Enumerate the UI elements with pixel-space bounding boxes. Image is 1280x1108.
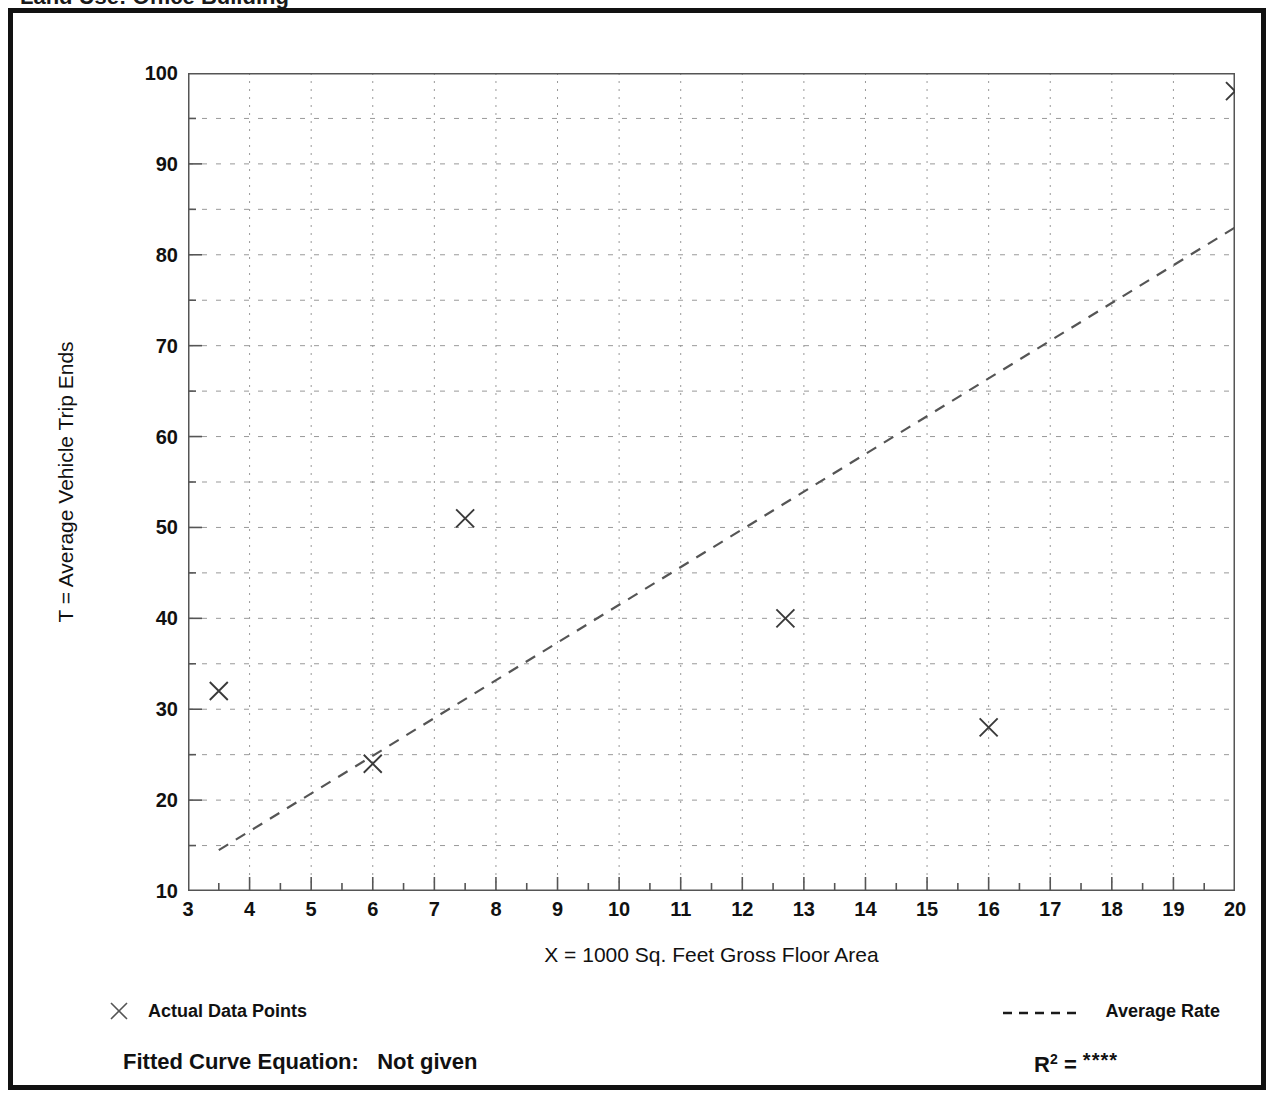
x-axis-tick-label: 8 [476, 899, 516, 919]
r-squared-equals: = [1064, 1052, 1077, 1077]
legend-item-data-points: Actual Data Points [108, 995, 307, 1027]
y-axis-tick-labels: 102030405060708090100 [123, 73, 178, 891]
plot-area [188, 73, 1235, 891]
y-axis-title: T = Average Vehicle Trip Ends [51, 73, 81, 891]
x-axis-tick-label: 15 [907, 899, 947, 919]
x-axis-tick-label: 18 [1092, 899, 1132, 919]
y-axis-title-text: T = Average Vehicle Trip Ends [54, 341, 78, 622]
y-axis-tick-label: 90 [128, 154, 178, 174]
legend-item-average-rate: Average Rate [1002, 995, 1220, 1027]
x-axis-title-text: X = 1000 Sq. Feet Gross Floor Area [544, 943, 878, 966]
x-axis-tick-label: 9 [538, 899, 578, 919]
y-axis-tick-label: 10 [128, 881, 178, 901]
x-axis-tick-label: 5 [291, 899, 331, 919]
x-axis-tick-label: 17 [1030, 899, 1070, 919]
legend-label-average-rate: Average Rate [1106, 1001, 1220, 1022]
x-axis-tick-label: 14 [845, 899, 885, 919]
x-axis-tick-label: 12 [722, 899, 762, 919]
data-point-marker [210, 682, 228, 700]
y-axis-tick-label: 60 [128, 427, 178, 447]
chart-footnotes: Fitted Curve Equation: Not given R2 = **… [123, 1049, 1238, 1083]
fitted-curve-label: Fitted Curve Equation: [123, 1049, 359, 1074]
x-axis-tick-label: 11 [661, 899, 701, 919]
x-axis-tick-label: 7 [414, 899, 454, 919]
x-axis-tick-label: 6 [353, 899, 393, 919]
fitted-curve-value: Not given [377, 1049, 477, 1074]
y-axis-tick-label: 100 [128, 63, 178, 83]
chart-legend: Actual Data Points Average Rate [108, 995, 1238, 1027]
scatter-plot-svg [188, 73, 1235, 891]
x-axis-tick-label: 20 [1215, 899, 1255, 919]
x-axis-tick-label: 4 [230, 899, 270, 919]
y-axis-tick-label: 40 [128, 608, 178, 628]
x-axis-title: X = 1000 Sq. Feet Gross Floor Area [188, 943, 1235, 967]
y-axis-tick-label: 80 [128, 245, 178, 265]
x-axis-tick-label: 3 [168, 899, 208, 919]
y-axis-tick-label: 70 [128, 336, 178, 356]
x-axis-tick-labels: 34567891011121314151617181920 [188, 899, 1235, 927]
y-axis-tick-label: 20 [128, 790, 178, 810]
dashed-line-icon [1002, 1005, 1084, 1017]
chart-frame: T = Average Vehicle Trip Ends 1020304050… [8, 8, 1266, 1090]
x-axis-tick-label: 19 [1153, 899, 1193, 919]
x-axis-tick-label: 13 [784, 899, 824, 919]
y-axis-tick-label: 30 [128, 699, 178, 719]
y-axis-tick-label: 50 [128, 517, 178, 537]
r-squared-value: R2 = **** [1034, 1049, 1118, 1078]
r-squared-label: R [1034, 1052, 1050, 1077]
x-marker-icon [108, 1000, 130, 1022]
x-axis-tick-label: 10 [599, 899, 639, 919]
data-point-marker [456, 509, 474, 527]
r-squared-stars: **** [1083, 1049, 1118, 1071]
legend-label-data-points: Actual Data Points [148, 1001, 307, 1022]
r-squared-exponent: 2 [1050, 1051, 1058, 1067]
x-axis-tick-label: 16 [969, 899, 1009, 919]
fitted-curve-equation: Fitted Curve Equation: Not given [123, 1049, 477, 1075]
